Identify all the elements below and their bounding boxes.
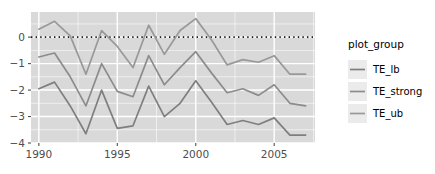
legend: plot_group TE_lbTE_strongTE_ub xyxy=(348,38,422,123)
x-tick-label: 1990 xyxy=(25,148,52,160)
legend-title: plot_group xyxy=(348,38,404,51)
y-tick-label: 0 xyxy=(18,31,25,43)
y-tick-label: −3 xyxy=(10,110,25,122)
x-tick-label: 1995 xyxy=(104,148,131,160)
x-tick-label: 2000 xyxy=(182,148,209,160)
legend-item-label: TE_lb xyxy=(372,64,400,76)
y-tick-label: −4 xyxy=(10,137,26,149)
legend-items: TE_lbTE_strongTE_ub xyxy=(348,60,422,123)
legend-item-te-ub[interactable]: TE_ub xyxy=(348,104,403,123)
legend-item-label: TE_ub xyxy=(372,108,403,120)
y-axis-tick-labels: 0−1−2−3−4 xyxy=(10,31,26,149)
y-tick-label: −1 xyxy=(10,57,25,69)
legend-item-te-strong[interactable]: TE_strong xyxy=(348,82,422,101)
chart-container: 0−1−2−3−4 1990199520002005 plot_group TE… xyxy=(0,0,435,174)
x-tick-label: 2005 xyxy=(261,148,288,160)
y-tick-label: −2 xyxy=(10,84,25,96)
legend-item-label: TE_strong xyxy=(372,86,422,98)
x-axis-tick-labels: 1990199520002005 xyxy=(25,148,287,160)
legend-item-te-lb[interactable]: TE_lb xyxy=(348,60,400,79)
line-chart: 0−1−2−3−4 1990199520002005 plot_group TE… xyxy=(0,0,435,174)
plot-panel-background xyxy=(31,12,315,143)
